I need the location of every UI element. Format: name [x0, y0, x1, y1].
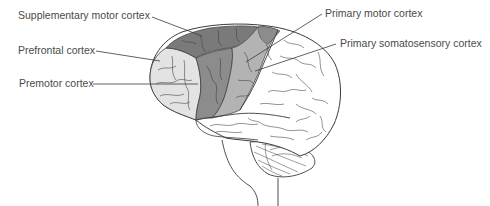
brain-illustration [0, 0, 490, 206]
label-primary-somatosensory-cortex: Primary somatosensory cortex [340, 37, 482, 49]
label-supplementary-motor-cortex: Supplementary motor cortex [18, 9, 150, 21]
label-primary-motor-cortex: Primary motor cortex [325, 7, 422, 19]
label-prefrontal-cortex: Prefrontal cortex [18, 44, 95, 56]
brain-diagram: Supplementary motor cortex Prefrontal co… [0, 0, 490, 206]
label-premotor-cortex: Premotor cortex [19, 77, 94, 89]
